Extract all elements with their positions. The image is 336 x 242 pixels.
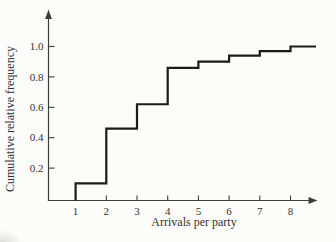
x-tick-label: 8 (288, 205, 294, 217)
y-tick-label: 1.0 (30, 40, 44, 52)
x-tick-label: 3 (134, 205, 140, 217)
y-tick-label: 0.2 (30, 162, 44, 174)
x-tick-label: 7 (257, 205, 263, 217)
y-tick-label: 0.8 (30, 71, 44, 83)
chart-svg: 0.20.40.60.81.012345678 Cumulative relat… (0, 0, 336, 242)
x-axis-arrowhead (309, 197, 318, 204)
cumulative-step-curve (76, 47, 316, 201)
y-axis-title: Cumulative relative frequency (3, 46, 17, 192)
x-tick-label: 1 (73, 205, 79, 217)
series-layer (76, 47, 316, 201)
y-tick-label: 0.4 (30, 131, 44, 143)
ticks-layer: 0.20.40.60.81.012345678 (30, 40, 294, 216)
y-tick-label: 0.6 (30, 101, 44, 113)
y-axis-arrowhead (45, 10, 52, 20)
axes-layer (45, 10, 317, 204)
x-tick-label: 2 (104, 205, 110, 217)
cumulative-frequency-ogive-figure: 0.20.40.60.81.012345678 Cumulative relat… (0, 0, 336, 242)
x-axis-title: Arrivals per party (151, 215, 236, 229)
